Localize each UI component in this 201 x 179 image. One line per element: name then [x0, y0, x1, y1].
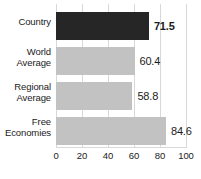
bar-free-economies[interactable] [56, 117, 166, 145]
bar-world-average[interactable] [56, 47, 135, 75]
bar-row: 58.8 [56, 82, 186, 110]
x-tick-label: 0 [53, 150, 58, 161]
category-label-line: Regional [0, 82, 51, 93]
bar-value-label: 71.5 [149, 20, 175, 32]
bar-country[interactable] [56, 12, 149, 40]
category-label-regional-average: Regional Average [0, 82, 51, 103]
x-tick-label: 80 [155, 150, 165, 161]
bar-chart: 71.5 60.4 58.8 84.6 Country World Averag… [0, 0, 201, 179]
plot-area: 71.5 60.4 58.8 84.6 [56, 4, 186, 147]
category-label-line: Average [0, 93, 51, 104]
category-label-line: Country [0, 17, 51, 28]
category-label-free-economies: Free Economies [0, 117, 51, 138]
bar-value-label: 60.4 [135, 55, 161, 67]
bar-value-label: 84.6 [166, 125, 192, 137]
x-tick-label: 60 [129, 150, 139, 161]
category-label-country: Country [0, 17, 51, 28]
x-tick-label: 20 [77, 150, 87, 161]
bar-regional-average[interactable] [56, 82, 132, 110]
x-axis-baseline [56, 147, 187, 148]
category-label-line: Free [0, 117, 51, 128]
bar-value-label: 58.8 [132, 90, 158, 102]
category-label-line: Average [0, 58, 51, 69]
bar-row: 71.5 [56, 12, 186, 40]
x-tick-label: 100 [178, 150, 194, 161]
bar-row: 84.6 [56, 117, 186, 145]
x-tick-label: 40 [103, 150, 113, 161]
category-label-world-average: World Average [0, 47, 51, 68]
category-label-line: Economies [0, 128, 51, 139]
category-label-line: World [0, 47, 51, 58]
bar-row: 60.4 [56, 47, 186, 75]
